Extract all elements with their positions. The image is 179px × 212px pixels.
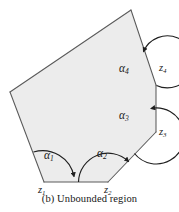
vertex-label-z3: z3 [159,127,167,139]
region-fill [10,10,156,182]
figure-caption: (b) Unbounded region [0,193,179,204]
angle-label-alpha4: α4 [119,63,129,76]
angle-label-alpha1: α1 [44,150,54,163]
figure-unbounded-region: α1 α2 α3 α4 z1 z2 z3 z4 (b) Unbounded re… [0,0,179,212]
angle-label-alpha2: α2 [97,148,107,161]
unbounded-region-drawing [0,0,179,212]
angle-label-alpha3: α3 [119,110,129,123]
vertex-label-z4: z4 [159,63,167,75]
